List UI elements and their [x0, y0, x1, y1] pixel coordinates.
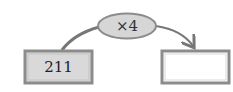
input-value: 211: [44, 58, 73, 76]
connector-in: [62, 27, 99, 50]
output-box: [162, 51, 229, 83]
connector-out-arrow: [156, 26, 193, 46]
operation-label: ×4: [116, 17, 138, 35]
input-box: 211: [25, 51, 92, 83]
function-machine-diagram: 211 ×4: [0, 0, 233, 92]
operation-ellipse: ×4: [98, 14, 156, 39]
